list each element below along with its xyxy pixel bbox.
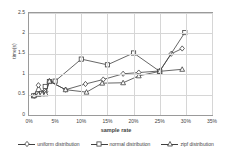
data-point-marker-diamond	[25, 141, 29, 146]
data-point-marker-diamond	[180, 46, 184, 51]
gridline-vertical	[186, 13, 187, 115]
legend-item-label: uniform distribution	[37, 141, 79, 147]
gridline-vertical	[160, 13, 161, 115]
x-tick-label: 35%	[197, 118, 227, 124]
legend-item-label: zipf distribution	[180, 141, 213, 147]
data-point-marker-triangle	[180, 67, 185, 72]
y-tick-label: 0	[0, 112, 25, 117]
gridline-vertical	[107, 13, 108, 115]
gridline-horizontal	[29, 95, 212, 96]
y-tick-label: 0.5	[0, 91, 25, 96]
gridline-horizontal	[29, 54, 212, 55]
data-point-marker-square	[43, 84, 47, 88]
legend-item-label: normal distribution	[110, 141, 151, 147]
chart-legend: uniform distributionnormal distributionz…	[0, 140, 232, 148]
gridline-vertical	[55, 13, 56, 115]
gridline-horizontal	[29, 74, 212, 75]
data-point-marker-diamond	[36, 83, 40, 88]
y-axis-title: time(s)	[11, 31, 17, 71]
y-tick-label: 2.5	[0, 10, 25, 15]
data-point-marker-triangle	[167, 141, 172, 146]
legend-item[interactable]: normal distribution	[91, 140, 151, 148]
legend-marker-triangle-icon	[161, 140, 178, 148]
plot-area	[28, 12, 213, 116]
legend-item[interactable]: zipf distribution	[161, 140, 213, 148]
gridline-horizontal	[29, 13, 212, 14]
legend-marker-diamond-icon	[18, 140, 35, 148]
gridline-vertical	[212, 13, 213, 115]
x-axis-title: sample rate	[0, 127, 232, 133]
gridline-vertical	[81, 13, 82, 115]
legend-marker-square-icon	[91, 140, 108, 148]
legend-item[interactable]: uniform distribution	[18, 140, 79, 148]
y-tick-label: 1	[0, 71, 25, 76]
gridline-vertical	[134, 13, 135, 115]
series-layer	[29, 13, 212, 115]
gridline-horizontal	[29, 33, 212, 34]
data-point-marker-diamond	[83, 81, 87, 86]
data-point-marker-square	[97, 142, 101, 146]
chart-container: 00.511.522.5 0%5%10%15%20%25%30%35% time…	[0, 0, 232, 168]
